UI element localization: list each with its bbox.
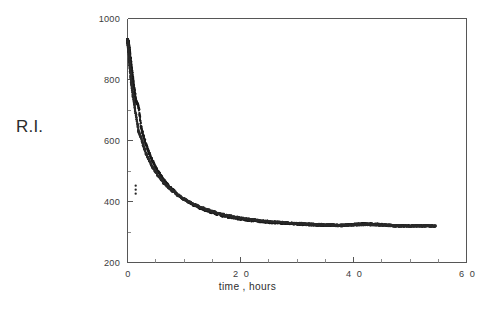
annotation-markers xyxy=(135,184,137,194)
data-point xyxy=(434,224,437,227)
data-series-run-2 xyxy=(126,39,437,228)
y-tick-label: 800 xyxy=(104,75,120,85)
data-series-run-1 xyxy=(126,38,437,228)
y-axis-tick-labels: 2004006008001000 xyxy=(99,14,120,268)
x-axis-tick-labels: 02 04 06 0 xyxy=(125,269,476,279)
stray-data-point xyxy=(135,188,137,190)
data-point xyxy=(134,110,136,112)
y-tick-label: 600 xyxy=(104,136,120,146)
data-point xyxy=(138,110,140,112)
figure-canvas: 2004006008001000 02 04 06 0 R.I. time , … xyxy=(0,0,495,309)
y-tick-label: 400 xyxy=(104,197,120,207)
chart-plot: 2004006008001000 02 04 06 0 xyxy=(0,0,495,309)
data-point xyxy=(139,116,141,118)
x-axis-ticks xyxy=(128,257,467,263)
y-tick-label: 1000 xyxy=(99,14,120,24)
stray-data-point xyxy=(135,184,137,186)
x-tick-label: 0 xyxy=(125,269,132,279)
data-point xyxy=(139,123,141,125)
x-axis-title: time , hours xyxy=(0,281,495,292)
stray-data-point xyxy=(135,192,137,194)
data-point xyxy=(148,158,150,160)
x-tick-label: 6 0 xyxy=(459,269,477,279)
y-axis-title: R.I. xyxy=(16,117,43,137)
data-point xyxy=(136,119,138,121)
x-tick-label: 4 0 xyxy=(346,269,364,279)
x-tick-label: 2 0 xyxy=(233,269,251,279)
y-tick-label: 200 xyxy=(104,258,120,268)
